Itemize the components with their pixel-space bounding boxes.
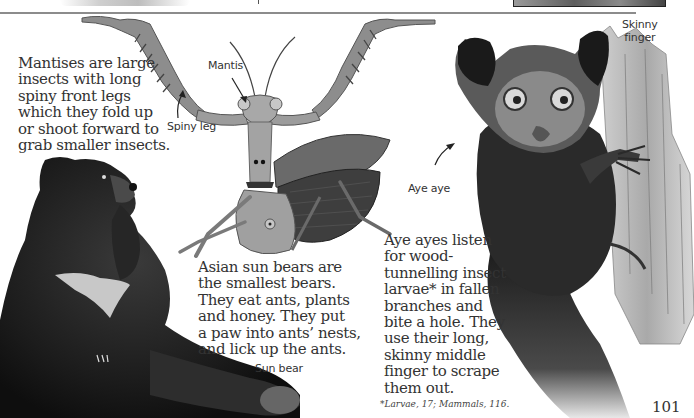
book-page: Mantises are large insects with long spi… xyxy=(0,0,694,418)
mantis-paragraph: Mantises are large insects with long spi… xyxy=(18,55,170,153)
sun-bear-paragraph: Asian sun bears are the smallest bears. … xyxy=(198,259,361,357)
text-line: and lick up the ants. xyxy=(198,341,361,357)
text-line: finger to scrape xyxy=(384,363,506,379)
footnote: *Larvae, 17; Mammals, 116. xyxy=(380,399,509,409)
text-line: a paw into ants’ nests, xyxy=(198,325,361,341)
text-line: Asian sun bears are xyxy=(198,259,361,275)
text-line: branches and xyxy=(384,298,506,314)
text-line: for wood- xyxy=(384,248,506,264)
text-line: Aye ayes listen xyxy=(384,232,506,248)
text-line: and honey. They put xyxy=(198,308,361,324)
text-line: or shoot forward to xyxy=(18,121,170,137)
text-line: tunnelling insect xyxy=(384,265,506,281)
label-line: Skinny xyxy=(622,18,658,31)
label-line: finger xyxy=(622,31,658,44)
text-line: larvae* in fallen xyxy=(384,281,506,297)
label-mantis: Mantis xyxy=(208,59,243,72)
aye-aye-paragraph: Aye ayes listen for wood- tunnelling ins… xyxy=(384,232,506,396)
text-line: spiny front legs xyxy=(18,88,170,104)
label-sun-bear: Sun bear xyxy=(255,362,303,375)
text-line: the smallest bears. xyxy=(198,275,361,291)
text-line: them out. xyxy=(384,380,506,396)
page-number: 101 xyxy=(652,398,681,416)
label-aye-aye: Aye aye xyxy=(408,182,450,195)
text-line: skinny middle xyxy=(384,347,506,363)
text-line: grab smaller insects. xyxy=(18,137,170,153)
text-line: bite a hole. They xyxy=(384,314,506,330)
text-line: insects with long xyxy=(18,71,170,87)
label-spiny-leg: Spiny leg xyxy=(167,120,216,133)
label-skinny-finger: Skinny finger xyxy=(622,18,658,44)
text-line: use their long, xyxy=(384,330,506,346)
text-line: which they fold up xyxy=(18,104,170,120)
text-line: They eat ants, plants xyxy=(198,292,361,308)
text-line: Mantises are large xyxy=(18,55,170,71)
